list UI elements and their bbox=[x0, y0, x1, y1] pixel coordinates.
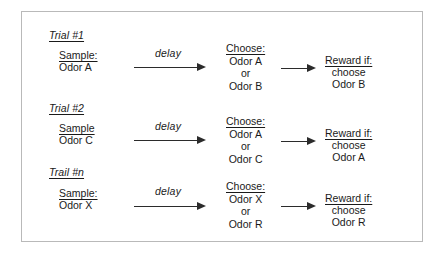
sample-title: Sample: bbox=[59, 188, 98, 200]
sample-block: Sample Odor C bbox=[59, 123, 95, 146]
sample-block: Sample: Odor X bbox=[59, 188, 98, 211]
reward-line-1: choose bbox=[325, 139, 372, 151]
arrow-head bbox=[307, 64, 316, 72]
delay-arrow bbox=[134, 202, 206, 211]
reward-block: Reward if: choose Odor B bbox=[325, 54, 372, 90]
delay-label: delay bbox=[155, 47, 181, 59]
choose-title: Choose: bbox=[226, 115, 265, 128]
reward-block: Reward if: choose Odor R bbox=[325, 192, 372, 228]
arrow-shaft bbox=[281, 141, 307, 143]
trial-heading: Trail #n bbox=[49, 166, 84, 178]
choose-block: Choose: Odor A or Odor C bbox=[226, 115, 265, 165]
delay-arrow bbox=[134, 63, 206, 72]
arrow-shaft bbox=[281, 206, 307, 208]
arrow-head bbox=[197, 136, 206, 144]
choose-option-b: Odor R bbox=[226, 218, 265, 231]
arrow-head bbox=[307, 202, 316, 210]
choice-to-reward-arrow bbox=[281, 137, 316, 146]
choose-option-a: Odor X bbox=[226, 193, 265, 206]
arrow-head bbox=[307, 137, 316, 145]
arrow-shaft bbox=[134, 67, 197, 69]
choice-to-reward-arrow bbox=[281, 64, 316, 73]
choose-option-b: Odor B bbox=[226, 80, 265, 93]
sample-value: Odor A bbox=[59, 62, 98, 74]
delay-arrow bbox=[134, 136, 206, 145]
choose-title: Choose: bbox=[226, 42, 265, 55]
reward-title: Reward if: bbox=[325, 127, 372, 139]
arrow-head bbox=[197, 202, 206, 210]
sample-value: Odor C bbox=[59, 135, 95, 147]
sample-block: Sample: Odor A bbox=[59, 50, 98, 73]
reward-block: Reward if: choose Odor A bbox=[325, 127, 372, 163]
reward-line-1: choose bbox=[325, 66, 372, 78]
reward-title: Reward if: bbox=[325, 54, 372, 66]
arrow-shaft bbox=[134, 206, 197, 208]
choice-to-reward-arrow bbox=[281, 202, 316, 211]
choose-conjunction: or bbox=[226, 67, 265, 80]
delay-label: delay bbox=[155, 185, 181, 197]
choose-option-b: Odor C bbox=[226, 153, 265, 166]
arrow-shaft bbox=[134, 140, 197, 142]
delay-label: delay bbox=[155, 120, 181, 132]
trial-heading: Trial #2 bbox=[49, 102, 84, 114]
trial-heading: Trial #1 bbox=[49, 29, 84, 41]
sample-title: Sample: bbox=[59, 50, 98, 62]
choose-option-a: Odor A bbox=[226, 128, 265, 141]
arrow-shaft bbox=[281, 68, 307, 70]
figure-border-frame: Trial #1 Sample: Odor A delay Choose: Od… bbox=[21, 11, 423, 242]
reward-line-2: Odor R bbox=[325, 216, 372, 228]
reward-line-1: choose bbox=[325, 204, 372, 216]
arrow-head bbox=[197, 63, 206, 71]
choose-title: Choose: bbox=[226, 180, 265, 193]
sample-value: Odor X bbox=[59, 200, 98, 212]
choose-block: Choose: Odor X or Odor R bbox=[226, 180, 265, 230]
choose-option-a: Odor A bbox=[226, 55, 265, 68]
reward-title: Reward if: bbox=[325, 192, 372, 204]
choose-conjunction: or bbox=[226, 140, 265, 153]
reward-line-2: Odor B bbox=[325, 78, 372, 90]
choose-conjunction: or bbox=[226, 205, 265, 218]
sample-title: Sample bbox=[59, 123, 95, 135]
choose-block: Choose: Odor A or Odor B bbox=[226, 42, 265, 92]
reward-line-2: Odor A bbox=[325, 151, 372, 163]
